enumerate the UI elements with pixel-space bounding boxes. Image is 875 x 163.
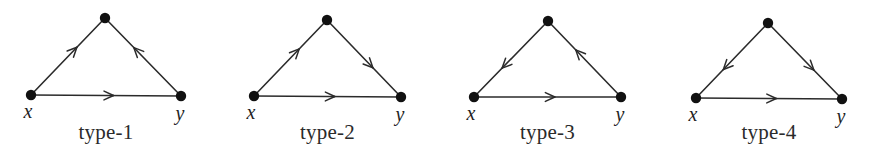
- caption-type-4: type-4: [669, 118, 869, 146]
- node-x-type-4: [691, 93, 701, 103]
- edge-x-y-type-4: [696, 98, 842, 99]
- edge-x-apex-type-4: [696, 23, 768, 98]
- triangle-figure-type-4: xytype-4: [0, 0, 875, 163]
- node-apex-type-4: [763, 18, 773, 28]
- node-y-type-4: [837, 94, 847, 104]
- edge-apex-y-type-4: [768, 23, 842, 99]
- figure-container: xytype-1xytype-2xytype-3xytype-4: [0, 0, 875, 163]
